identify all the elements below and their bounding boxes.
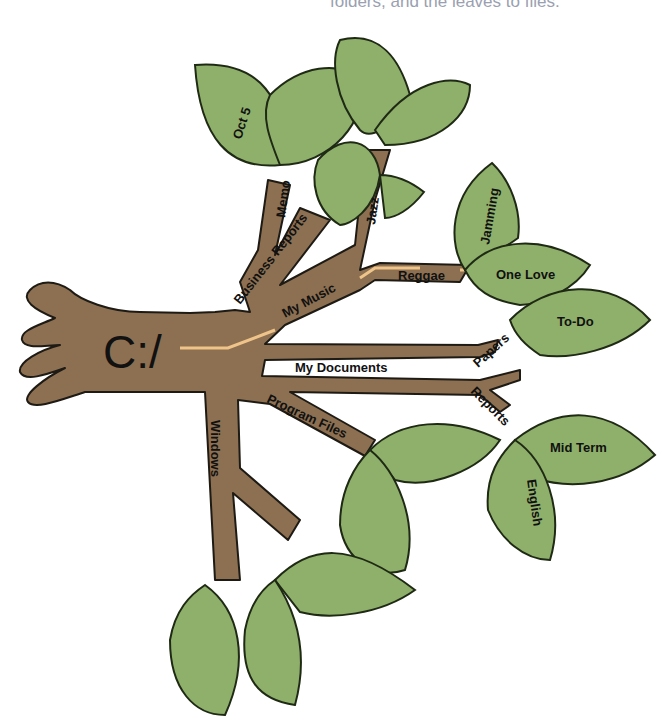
folder-label-windows: Windows: [208, 420, 223, 477]
folder-label-my-documents: My Documents: [295, 360, 387, 375]
file-label-mid-term: Mid Term: [550, 440, 607, 455]
root-label: C:/: [103, 326, 162, 378]
tree-branches: [20, 150, 520, 580]
file-label-one-love: One Love: [496, 267, 555, 282]
file-tree-diagram: C:/ Business Reports Memo My Music Jazz …: [0, 0, 663, 716]
file-label-todo: To-Do: [557, 314, 594, 329]
leaf: [170, 585, 239, 715]
trunk: [20, 150, 520, 580]
folder-label-jazz: Jazz: [363, 196, 382, 226]
folder-label-program-files: Program Files: [265, 391, 350, 441]
leaf: [380, 175, 424, 218]
folder-label-reggae: Reggae: [398, 268, 445, 283]
